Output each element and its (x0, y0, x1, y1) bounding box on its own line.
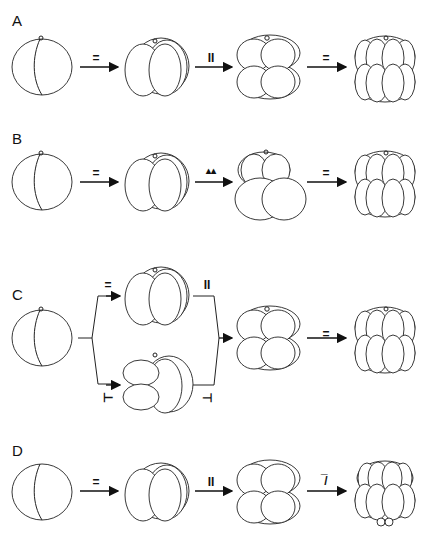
cleavage-diagram (0, 0, 428, 535)
panel-b (12, 150, 415, 220)
panel-d (12, 460, 415, 526)
panel-c (12, 267, 415, 413)
panel-a (12, 35, 415, 102)
